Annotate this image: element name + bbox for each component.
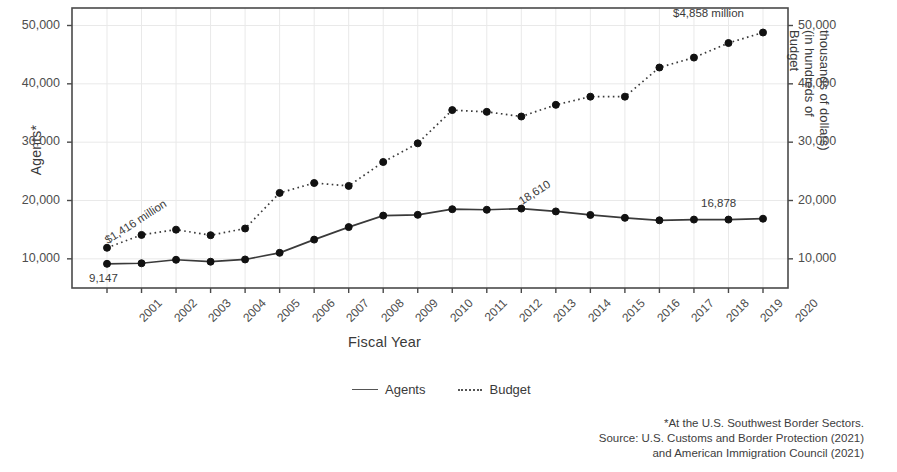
y-tick-left-40000: 40,000 bbox=[0, 76, 60, 90]
chart-plot-area bbox=[0, 0, 897, 472]
y-tick-right-20000: 20,000 bbox=[798, 193, 858, 207]
y-tick-left-30000: 30,000 bbox=[0, 134, 60, 148]
legend-line-solid-icon bbox=[352, 386, 378, 394]
y-axis-label-right-line-1: Budget bbox=[786, 30, 802, 270]
y-axis-label-right: Budget (in hundreds of thousands of doll… bbox=[786, 30, 846, 270]
y-tick-right-10000: 10,000 bbox=[798, 251, 858, 265]
y-axis-label-right-line-2: (in hundreds of bbox=[801, 30, 817, 270]
legend-label-budget: Budget bbox=[489, 382, 530, 397]
y-tick-left-10000: 10,000 bbox=[0, 251, 60, 265]
footnote-line-1: *At the U.S. Southwest Border Sectors. bbox=[0, 416, 864, 431]
annotation-3: 16,878 bbox=[701, 197, 736, 209]
y-tick-left-50000: 50,000 bbox=[0, 18, 60, 32]
chart-footnote: *At the U.S. Southwest Border Sectors. S… bbox=[0, 416, 880, 461]
chart-figure: Agents* Budget (in hundreds of thousands… bbox=[0, 0, 897, 472]
legend-label-agents: Agents bbox=[385, 382, 425, 397]
legend-item-budget: Budget bbox=[456, 382, 530, 397]
annotation-4: $4,858 million bbox=[673, 7, 744, 19]
y-tick-left-20000: 20,000 bbox=[0, 193, 60, 207]
x-axis-label: Fiscal Year bbox=[348, 334, 421, 350]
annotation-1: 9,147 bbox=[89, 272, 118, 284]
y-tick-right-50000: 50,000 bbox=[798, 18, 858, 32]
y-tick-right-30000: 30,000 bbox=[798, 134, 858, 148]
y-axis-label-right-line-3: thousands of dollars) bbox=[816, 30, 832, 270]
legend-item-agents: Agents bbox=[352, 382, 425, 397]
footnote-line-3: and American Immigration Council (2021) bbox=[0, 446, 864, 461]
footnote-line-2: Source: U.S. Customs and Border Protecti… bbox=[0, 431, 864, 446]
chart-legend: Agents Budget bbox=[352, 382, 531, 397]
y-tick-right-40000: 40,000 bbox=[798, 76, 858, 90]
legend-line-dotted-icon bbox=[456, 386, 482, 394]
